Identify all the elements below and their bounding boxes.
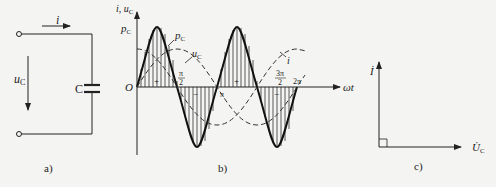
pc-curve-label: pC [174, 29, 186, 43]
svg-text:2: 2 [179, 78, 183, 87]
uc-leader [185, 57, 192, 63]
tick-2pi: 2π [293, 77, 301, 86]
sign-plus-2: + [234, 76, 239, 86]
uc-curve-label: uC [192, 48, 202, 61]
tick-pi-over-2: π 2 [178, 69, 185, 87]
caption-b: b) [218, 162, 228, 175]
terminal-bottom [17, 132, 22, 137]
right-angle-icon [379, 139, 387, 147]
tick-pi: π [220, 90, 224, 99]
sign-minus-2: − [274, 89, 279, 99]
sign-plus-1: + [154, 76, 159, 86]
caption-c: c) [414, 160, 423, 173]
tick-3pi-over-2: 3π 2 [275, 69, 286, 87]
current-phasor-label: İ [369, 65, 375, 77]
voltage-label: uC [14, 72, 25, 87]
panel-a-circuit [17, 26, 101, 137]
x-axis-label: ωt [343, 81, 355, 93]
terminal-top [17, 32, 22, 37]
wire-top [22, 34, 93, 85]
y-axis-label: i, uC [116, 3, 134, 16]
pc-axis-label: pC [120, 22, 132, 36]
pc-leader [168, 40, 174, 46]
svg-text:3π: 3π [276, 69, 284, 78]
svg-text:2: 2 [278, 78, 282, 87]
current-label: i [56, 13, 59, 27]
wire-bottom [22, 92, 93, 134]
caption-a: a) [44, 162, 53, 175]
i-curve-label: i [287, 55, 290, 66]
voltage-phasor-label: U̇C [472, 141, 485, 155]
capacitor-label: C [75, 82, 83, 96]
origin-label: O [125, 81, 133, 93]
svg-text:π: π [179, 69, 183, 78]
panel-c-phasors [379, 62, 461, 147]
sign-minus-1: − [193, 89, 198, 99]
capacitor-circuit-figure: i uC C a) [0, 0, 496, 187]
